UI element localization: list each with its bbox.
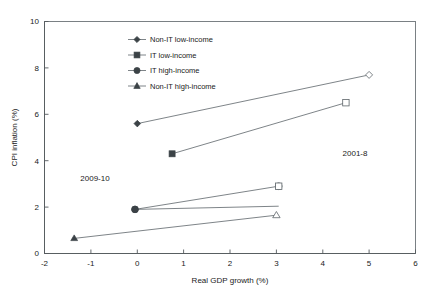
- series-it-high-income: [132, 183, 282, 213]
- x-tick-label: -1: [87, 259, 95, 268]
- series-segment: [135, 186, 279, 209]
- data-point-marker-open: [343, 100, 349, 106]
- y-tick-label: 4: [35, 157, 40, 166]
- x-tick-label: -2: [41, 259, 49, 268]
- x-tick-label: 2: [228, 259, 233, 268]
- y-tick-label: 6: [35, 110, 40, 119]
- legend-label: Non-IT high-income: [150, 82, 216, 91]
- data-point-marker-open: [273, 212, 280, 218]
- series-segment: [172, 103, 346, 154]
- legend-entry-non-it-high-income[interactable]: Non-IT high-income: [128, 82, 216, 91]
- series-non-it-high-income: [71, 212, 280, 241]
- chart-legend: Non-IT low-income IT low-income IT high-…: [128, 35, 216, 91]
- x-axis-ticks: [45, 250, 416, 254]
- data-point-marker-filled: [169, 151, 175, 157]
- x-tick-label: 4: [321, 259, 326, 268]
- x-axis-title: Real GDP growth (%): [192, 276, 269, 285]
- x-tick-label: 0: [135, 259, 140, 268]
- x-tick-label: 1: [181, 259, 186, 268]
- plot-frame: [45, 22, 416, 254]
- series-non-it-low-income: [134, 71, 373, 127]
- x-axis-tick-labels: -2 -1 0 1 2 3 4 5 6: [41, 259, 418, 268]
- x-tick-label: 6: [413, 259, 418, 268]
- y-axis-ticks: [45, 22, 49, 254]
- data-point-marker-open: [276, 183, 282, 189]
- data-point-marker-open: [366, 71, 373, 78]
- annotation-2001-8: 2001-8: [343, 149, 368, 158]
- annotation-2009-10: 2009-10: [80, 174, 110, 183]
- x-tick-label: 5: [367, 259, 372, 268]
- y-axis-tick-labels: 0 2 4 6 8 10: [30, 17, 39, 258]
- series-segment: [74, 215, 276, 238]
- y-axis-title: CPI inflation (%): [10, 108, 19, 166]
- series-segment: [135, 206, 279, 209]
- series-it-low-income: [169, 100, 349, 157]
- y-tick-label: 2: [35, 203, 40, 212]
- legend-marker-square-icon: [134, 52, 140, 58]
- x-tick-label: 3: [274, 259, 279, 268]
- legend-entry-non-it-low-income[interactable]: Non-IT low-income: [128, 35, 213, 44]
- legend-entry-it-low-income[interactable]: IT low-income: [128, 51, 197, 60]
- y-tick-label: 8: [35, 64, 40, 73]
- y-tick-label: 10: [30, 17, 39, 26]
- chart-figure: 0 2 4 6 8 10 -2 -1: [0, 0, 441, 297]
- legend-label: IT high-income: [150, 66, 199, 75]
- legend-entry-it-high-income[interactable]: IT high-income: [128, 66, 199, 75]
- data-point-marker-filled: [132, 206, 139, 213]
- legend-label: IT low-income: [150, 51, 197, 60]
- y-tick-label: 0: [35, 249, 40, 258]
- legend-marker-circle-icon: [134, 67, 140, 73]
- plot-canvas: 0 2 4 6 8 10 -2 -1: [0, 0, 441, 297]
- data-point-marker-filled: [134, 120, 141, 127]
- legend-marker-diamond-icon: [134, 36, 140, 42]
- legend-label: Non-IT low-income: [150, 35, 213, 44]
- legend-marker-triangle-icon: [134, 83, 140, 89]
- chart-svg: 0 2 4 6 8 10 -2 -1: [0, 0, 441, 297]
